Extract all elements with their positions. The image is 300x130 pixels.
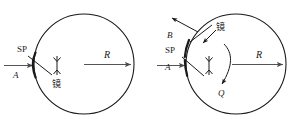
label-mirror-cjk-right: 镜	[216, 21, 225, 32]
panel-left: A SP 镜 R	[4, 14, 134, 114]
label-radius-right: R	[255, 49, 262, 60]
mirror-backing-lower-right	[185, 60, 187, 76]
label-mirror-point-right: SP	[165, 45, 175, 55]
mirror-callout-arrow-right	[203, 30, 216, 43]
label-mirror-point-left: SP	[17, 44, 27, 54]
rotation-arc-right	[222, 44, 231, 84]
reflected-ray-right	[172, 18, 198, 32]
label-reflected-ray-right: B	[167, 30, 173, 40]
optics-figure: A SP 镜 R	[0, 0, 300, 130]
label-incident-ray-right: A	[164, 62, 171, 72]
label-incident-ray-left: A	[12, 70, 19, 80]
label-radius-left: R	[103, 49, 110, 60]
label-rotation-right: Q	[218, 88, 225, 98]
figure-canvas: A SP 镜 R	[0, 0, 300, 130]
label-mirror-cjk-left: 镜	[52, 78, 61, 89]
panel-right: A B SP 镜 R Q	[157, 14, 286, 114]
